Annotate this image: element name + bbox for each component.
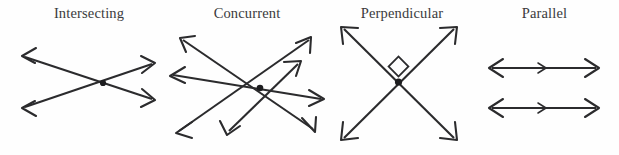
panel-intersecting: Intersecting lower-right --> upper-right… [0, 0, 178, 155]
diagram-parallel [470, 26, 619, 155]
concurrent-line-b [173, 75, 321, 99]
perpendicular-vertex-dot [395, 78, 402, 85]
concurrent-line-d [229, 64, 298, 131]
right-angle-marker [389, 57, 409, 77]
panel-concurrent: Concurrent [163, 0, 331, 155]
panel-label-intersecting: Intersecting [0, 5, 178, 22]
intersecting-line-a [25, 57, 152, 99]
panel-label-concurrent: Concurrent [163, 5, 331, 22]
diagram-intersecting: lower-right --> upper-right --> [0, 26, 178, 155]
diagram-concurrent [163, 26, 331, 155]
concurrency-point-dot [257, 85, 264, 92]
arrowhead-down-right-icon [302, 117, 316, 132]
geometry-line-types-figure: Intersecting lower-right --> upper-right… [0, 0, 619, 155]
intersecting-line-b [25, 64, 152, 107]
intersection-point-dot [100, 80, 106, 86]
diagram-perpendicular [327, 26, 477, 155]
arrowhead-down-left-icon [176, 122, 192, 138]
panel-parallel: Parallel [470, 0, 619, 155]
panel-label-parallel: Parallel [470, 5, 619, 22]
panel-label-perpendicular: Perpendicular [327, 5, 477, 22]
panel-perpendicular: Perpendicular [327, 0, 477, 155]
